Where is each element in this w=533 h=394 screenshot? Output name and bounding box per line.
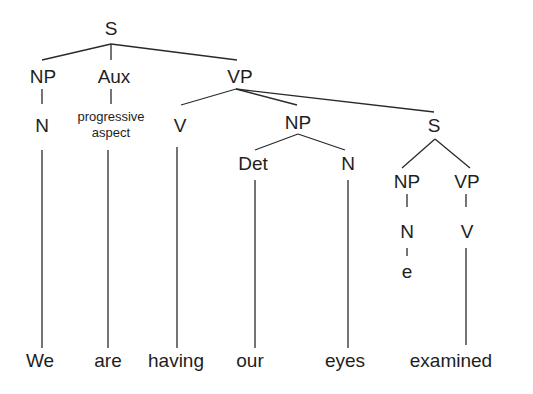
node-aux-feature: progressive aspect — [77, 109, 144, 140]
word-our: our — [236, 351, 263, 370]
node-vp: VP — [227, 67, 252, 86]
node-det: Det — [238, 154, 268, 173]
word-eyes: eyes — [325, 351, 365, 370]
node-n-embedded: N — [400, 222, 414, 241]
node-vp-embedded: VP — [454, 172, 479, 191]
aux-feature-line2: aspect — [77, 125, 144, 141]
node-s-embedded: S — [428, 116, 441, 135]
node-np-object: NP — [285, 113, 311, 132]
node-aux: Aux — [98, 67, 131, 86]
node-v-main: V — [174, 116, 187, 135]
word-are: are — [94, 351, 121, 370]
node-v-embedded: V — [461, 222, 474, 241]
word-we: We — [26, 351, 54, 370]
node-empty-category: e — [402, 262, 413, 281]
node-np-embedded: NP — [394, 172, 420, 191]
node-n-object: N — [341, 154, 355, 173]
aux-feature-line1: progressive — [77, 109, 144, 125]
word-examined: examined — [410, 351, 492, 370]
node-s-root: S — [105, 19, 118, 38]
tree-branches — [0, 0, 533, 394]
node-np-subject: NP — [30, 67, 56, 86]
word-having: having — [148, 351, 204, 370]
node-n-subject: N — [35, 116, 49, 135]
